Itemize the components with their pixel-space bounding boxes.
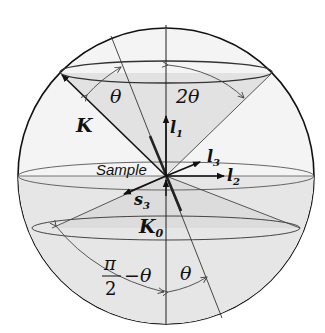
label-theta-bottom: θ	[180, 262, 192, 284]
label-two: 2	[105, 278, 116, 299]
label-sample: Sample	[96, 161, 147, 178]
label-minus-theta: −θ	[124, 264, 152, 286]
label-pi: π	[103, 253, 117, 274]
label-two-theta: 2θ	[175, 85, 200, 107]
label-k: K	[75, 114, 94, 136]
diagram-stage: K θ 2θ l1 l3 l2 s3 Sample K0 π 2 −θ θ	[0, 0, 325, 333]
scattering-sphere-diagram: K θ 2θ l1 l3 l2 s3 Sample K0 π 2 −θ θ	[0, 0, 325, 333]
label-theta-top: θ	[110, 85, 122, 107]
